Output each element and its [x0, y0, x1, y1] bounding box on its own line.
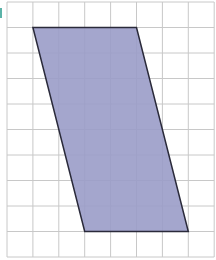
diagram-canvas	[0, 0, 216, 260]
grid-diagram	[0, 0, 216, 260]
edge-marker	[0, 8, 2, 18]
